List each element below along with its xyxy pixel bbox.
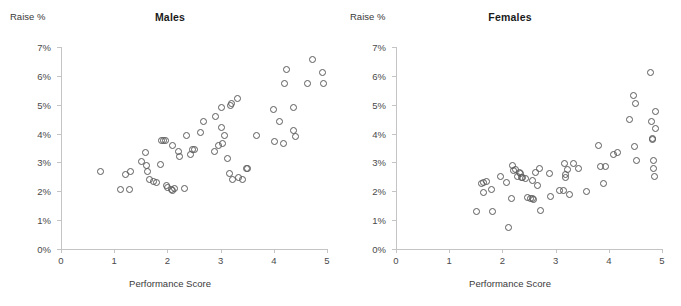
data-point <box>276 118 283 125</box>
data-point <box>162 137 169 144</box>
x-tick-label-males-1: 1 <box>112 255 117 266</box>
data-point <box>153 179 160 186</box>
data-point <box>126 186 133 193</box>
data-point <box>144 168 151 175</box>
x-axis-line-females <box>396 249 662 250</box>
panel-females: Females Raise % 0%1%2%3%4%5%6%7%012345 P… <box>340 0 680 306</box>
x-axis-line-males <box>61 249 327 250</box>
y-axis-label-males: Raise % <box>10 11 45 22</box>
y-tick-label-females-3: 3% <box>372 157 386 168</box>
data-point <box>221 132 228 139</box>
data-point <box>169 142 176 149</box>
data-point <box>283 66 290 73</box>
data-point <box>191 146 198 153</box>
x-tick-label-males-2: 2 <box>165 255 170 266</box>
x-tick-label-females-0: 0 <box>393 255 398 266</box>
data-point <box>292 133 299 140</box>
y-axis-line-females <box>396 47 397 249</box>
data-point <box>583 188 590 195</box>
data-point <box>290 104 297 111</box>
data-point <box>652 125 659 132</box>
x-tick-females-4 <box>609 249 610 253</box>
x-tick-males-5 <box>327 249 328 253</box>
data-point <box>562 174 569 181</box>
data-point <box>602 163 609 170</box>
x-axis-label-females: Performance Score <box>340 278 681 289</box>
y-axis-line-males <box>61 47 62 249</box>
data-point <box>183 132 190 139</box>
data-point <box>224 155 231 162</box>
data-point <box>200 118 207 125</box>
plot-area-males: 0%1%2%3%4%5%6%7%012345 <box>61 47 327 249</box>
data-point <box>234 95 241 102</box>
data-point <box>239 176 246 183</box>
x-tick-females-5 <box>662 249 663 253</box>
data-point <box>117 186 124 193</box>
data-point <box>480 189 487 196</box>
data-point <box>473 208 480 215</box>
data-point <box>253 132 260 139</box>
data-point <box>488 186 495 193</box>
data-point <box>483 178 490 185</box>
y-tick-label-males-4: 4% <box>37 129 51 140</box>
x-tick-females-1 <box>449 249 450 253</box>
x-tick-males-0 <box>61 249 62 253</box>
data-point <box>633 157 640 164</box>
data-point <box>309 56 316 63</box>
y-axis-label-females: Raise % <box>350 11 385 22</box>
data-point <box>564 166 571 173</box>
data-point <box>280 140 287 147</box>
scatter-plot-figure: Males Raise % 0%1%2%3%4%5%6%7%012345 Per… <box>0 0 681 306</box>
data-point <box>497 173 504 180</box>
panel-males: Males Raise % 0%1%2%3%4%5%6%7%012345 Per… <box>0 0 340 306</box>
data-point <box>503 179 510 186</box>
y-tick-label-females-2: 2% <box>372 186 386 197</box>
data-point <box>630 92 637 99</box>
y-tick-females-7: 7% <box>392 47 396 48</box>
y-tick-label-males-7: 7% <box>37 42 51 53</box>
y-tick-females-4: 4% <box>392 134 396 135</box>
data-point <box>320 80 327 87</box>
x-tick-label-males-0: 0 <box>58 255 63 266</box>
data-point <box>218 124 225 131</box>
x-tick-label-males-5: 5 <box>324 255 329 266</box>
y-tick-label-females-4: 4% <box>372 129 386 140</box>
data-point <box>650 165 657 172</box>
y-tick-males-5: 5% <box>57 105 61 106</box>
data-point <box>595 142 602 149</box>
y-tick-females-2: 2% <box>392 191 396 192</box>
y-tick-label-females-1: 1% <box>372 215 386 226</box>
y-tick-label-females-7: 7% <box>372 42 386 53</box>
y-tick-females-1: 1% <box>392 220 396 221</box>
data-point <box>489 208 496 215</box>
x-tick-label-females-5: 5 <box>659 255 664 266</box>
data-point <box>271 138 278 145</box>
y-tick-males-2: 2% <box>57 191 61 192</box>
x-tick-label-females-2: 2 <box>500 255 505 266</box>
data-point <box>127 168 134 175</box>
data-point <box>181 185 188 192</box>
y-tick-males-4: 4% <box>57 134 61 135</box>
x-axis-label-males: Performance Score <box>0 278 386 289</box>
data-point <box>157 161 164 168</box>
data-point <box>244 165 251 172</box>
data-point <box>600 180 607 187</box>
data-point <box>281 80 288 87</box>
data-point <box>142 149 149 156</box>
data-point <box>319 69 326 76</box>
data-point <box>547 193 554 200</box>
data-point <box>614 149 621 156</box>
data-point <box>575 165 582 172</box>
data-point <box>304 80 311 87</box>
data-point <box>650 157 657 164</box>
data-point <box>197 129 204 136</box>
x-tick-males-1 <box>114 249 115 253</box>
x-tick-females-2 <box>502 249 503 253</box>
data-point <box>534 182 541 189</box>
y-tick-females-5: 5% <box>392 105 396 106</box>
y-tick-females-6: 6% <box>392 76 396 77</box>
data-point <box>176 153 183 160</box>
data-point <box>631 143 638 150</box>
y-tick-label-females-5: 5% <box>372 100 386 111</box>
x-tick-label-males-3: 3 <box>218 255 223 266</box>
